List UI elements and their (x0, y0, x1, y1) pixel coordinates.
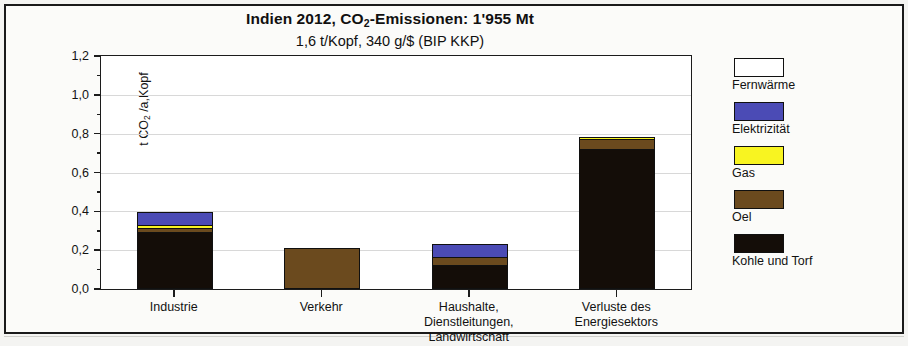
legend-label: Elektrizität (732, 122, 898, 136)
y-axis-tick (94, 133, 101, 135)
chart-legend: FernwärmeElektrizitätGasOelKohle und Tor… (728, 58, 898, 278)
bar-segment (138, 213, 212, 225)
bar-segment (580, 139, 654, 149)
y-axis-title-suffix: /a,Kopf (137, 72, 151, 115)
x-axis-category-label-line: Verluste des (543, 300, 691, 315)
x-axis-tick (468, 290, 470, 297)
y-axis-minor-tick (97, 152, 101, 154)
y-axis-tick (94, 55, 101, 57)
x-axis-tick (321, 290, 323, 297)
bar-segment (580, 149, 654, 288)
legend-label: Kohle und Torf (732, 254, 898, 268)
bar-segment (138, 232, 212, 288)
x-axis-tick (616, 290, 618, 297)
x-axis-category-label-line: Verkehr (248, 300, 396, 315)
x-axis-category-label-line: Dienstleitungen, (395, 315, 543, 330)
x-axis-category-label: Haushalte,Dienstleitungen,Landwirtschaft (395, 300, 543, 345)
y-axis-tick-label: 0,4 (55, 204, 89, 218)
bar-segment (433, 257, 507, 264)
y-axis-tick-label: 0,2 (55, 243, 89, 257)
legend-label: Oel (732, 210, 898, 224)
x-axis-category-label-line: Energiesektors (543, 315, 691, 330)
x-axis-category-label-line: Industrie (100, 300, 248, 315)
bar (432, 244, 508, 289)
bar-segment (433, 265, 507, 288)
legend-swatch (734, 58, 784, 77)
bar (137, 212, 213, 289)
y-axis-tick (94, 172, 101, 174)
y-axis-minor-tick (97, 75, 101, 77)
x-axis-category-label-line: Haushalte, (395, 300, 543, 315)
chart-title: Indien 2012, CO2-Emissionen: 1'955 Mt (60, 10, 720, 28)
x-axis-category-label: Industrie (100, 300, 248, 315)
legend-swatch (734, 146, 784, 165)
y-axis-minor-tick (97, 269, 101, 271)
y-axis-tick-label: 1,2 (55, 49, 89, 63)
x-axis-category-label-line: Landwirtschaft (395, 330, 543, 345)
legend-item[interactable]: Gas (728, 146, 898, 180)
chart-subtitle: 1,6 t/Kopf, 340 g/$ (BIP KKP) (60, 33, 720, 49)
bar-segment (285, 249, 359, 288)
y-axis-title-subscript: 2 (142, 115, 152, 120)
y-axis-tick-label: 0,0 (55, 282, 89, 296)
bar (284, 248, 360, 289)
x-axis: IndustrieVerkehrHaushalte,Dienstleitunge… (100, 290, 690, 345)
x-axis-tick (173, 290, 175, 297)
y-axis-tick (94, 94, 101, 96)
plot-area: t CO2 /a,Kopf 0,00,20,40,60,81,01,2 (100, 55, 692, 290)
legend-swatch (734, 234, 784, 253)
legend-item[interactable]: Kohle und Torf (728, 234, 898, 268)
gridline (101, 134, 691, 135)
y-axis-tick-label: 0,8 (55, 127, 89, 141)
legend-item[interactable]: Fernwärme (728, 58, 898, 92)
y-axis-tick-label: 0,6 (55, 166, 89, 180)
y-axis-title: t CO2 /a,Kopf (137, 34, 151, 184)
y-axis-minor-tick (97, 230, 101, 232)
bar-segment (433, 245, 507, 257)
chart-page: Indien 2012, CO2-Emissionen: 1'955 Mt 1,… (0, 0, 908, 346)
chart-title-prefix: Indien 2012, CO (246, 10, 364, 27)
legend-label: Fernwärme (732, 78, 898, 92)
chart-title-suffix: -Emissionen: 1'955 Mt (370, 10, 534, 27)
legend-item[interactable]: Elektrizität (728, 102, 898, 136)
bar (579, 137, 655, 289)
y-axis-minor-tick (97, 191, 101, 193)
y-axis-tick-label: 1,0 (55, 88, 89, 102)
legend-item[interactable]: Oel (728, 190, 898, 224)
y-axis-tick (94, 249, 101, 251)
y-axis-tick (94, 211, 101, 213)
legend-label: Gas (732, 166, 898, 180)
x-axis-category-label: Verluste desEnergiesektors (543, 300, 691, 330)
legend-swatch (734, 190, 784, 209)
chart-title-subscript: 2 (364, 17, 370, 29)
x-axis-category-label: Verkehr (248, 300, 396, 315)
gridline (101, 95, 691, 96)
legend-swatch (734, 102, 784, 121)
y-axis-minor-tick (97, 114, 101, 116)
